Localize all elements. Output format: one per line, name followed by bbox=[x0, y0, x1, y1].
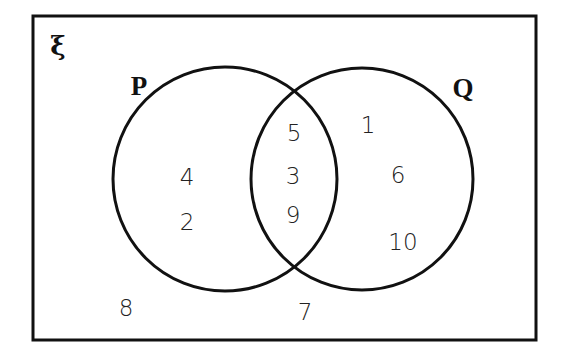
element: 5 bbox=[287, 120, 302, 146]
set-q-label: Q bbox=[452, 73, 473, 103]
outside-region: 8 7 bbox=[119, 295, 313, 325]
element: 3 bbox=[286, 163, 301, 189]
venn-diagram: ξ P Q 4 2 1 6 10 5 3 9 8 7 bbox=[0, 0, 570, 359]
element: 1 bbox=[361, 112, 376, 138]
intersection-region: 5 3 9 bbox=[286, 120, 302, 228]
universal-set-symbol: ξ bbox=[50, 31, 65, 61]
element: 9 bbox=[286, 202, 301, 228]
universal-set-border bbox=[33, 16, 536, 340]
set-q-only-region: 1 6 10 bbox=[361, 112, 418, 255]
set-q-circle bbox=[251, 68, 473, 290]
element: 10 bbox=[388, 229, 417, 255]
set-p-label: P bbox=[131, 71, 148, 101]
element: 8 bbox=[119, 295, 134, 321]
element: 6 bbox=[391, 162, 406, 188]
element: 4 bbox=[180, 164, 195, 190]
element: 2 bbox=[180, 209, 195, 235]
element: 7 bbox=[298, 299, 313, 325]
set-p-only-region: 4 2 bbox=[180, 164, 195, 235]
